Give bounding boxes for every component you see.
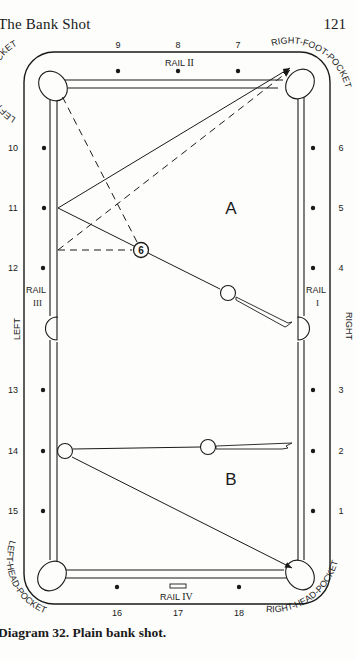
svg-text:14: 14 (8, 446, 18, 456)
rail-3-label: RAIL (26, 285, 46, 295)
left-head-pocket (32, 555, 72, 596)
pool-table-diagram: 9 8 7 16 17 18 10 11 12 13 14 15 6 5 4 3… (0, 0, 356, 660)
svg-text:2: 2 (338, 446, 343, 456)
cue-stick-b (216, 443, 292, 449)
diamond-numbers: 9 8 7 16 17 18 10 11 12 13 14 15 6 5 4 3… (8, 40, 344, 618)
svg-text:10: 10 (8, 143, 18, 153)
svg-text:6: 6 (338, 143, 343, 153)
svg-text:15: 15 (8, 506, 18, 516)
svg-text:1: 1 (338, 506, 343, 516)
cue-ball-b (201, 440, 216, 455)
right-side-pocket (298, 317, 310, 340)
right-side-label: RIGHT (344, 312, 354, 341)
left-foot-pocket (33, 65, 73, 106)
rail-2-label: RAIL II (165, 57, 194, 68)
rail-1-numeral: I (316, 298, 319, 308)
svg-text:3: 3 (338, 385, 343, 395)
svg-text:9: 9 (115, 40, 120, 50)
svg-text:13: 13 (8, 385, 18, 395)
svg-text:18: 18 (234, 608, 244, 618)
svg-text:4: 4 (338, 263, 343, 273)
cue-ball-a (221, 286, 236, 301)
svg-text:17: 17 (173, 608, 183, 618)
right-foot-pocket (280, 63, 320, 104)
table-outer-border (24, 52, 330, 604)
shot-b-label: B (225, 470, 236, 489)
table-cushions (50, 80, 304, 578)
object-ball-b (58, 444, 73, 459)
svg-text:11: 11 (8, 203, 17, 213)
rail-1-label: RAIL (306, 285, 326, 295)
svg-text:8: 8 (175, 40, 180, 50)
rail-3-numeral: III (33, 298, 42, 308)
figure-caption: Diagram 32. Plain bank shot. (0, 625, 166, 641)
left-foot-pocket-label: LEFT-FOOT-POCKET (0, 38, 19, 125)
object-ball-6: 6 (134, 243, 149, 258)
svg-text:16: 16 (112, 608, 122, 618)
svg-text:12: 12 (8, 263, 18, 273)
rail-4-label: RAIL IV (160, 591, 194, 602)
svg-text:6: 6 (138, 245, 144, 256)
svg-text:7: 7 (235, 40, 240, 50)
left-side-label: LEFT (12, 317, 22, 340)
shot-b-paths (72, 447, 292, 568)
shot-a-label: A (225, 199, 237, 218)
svg-text:5: 5 (338, 203, 343, 213)
left-side-pocket (46, 317, 58, 340)
shot-a-paths (58, 68, 290, 289)
head-spot-marker (170, 584, 186, 588)
rail-diamonds (41, 69, 315, 589)
cue-stick-a (236, 297, 292, 327)
